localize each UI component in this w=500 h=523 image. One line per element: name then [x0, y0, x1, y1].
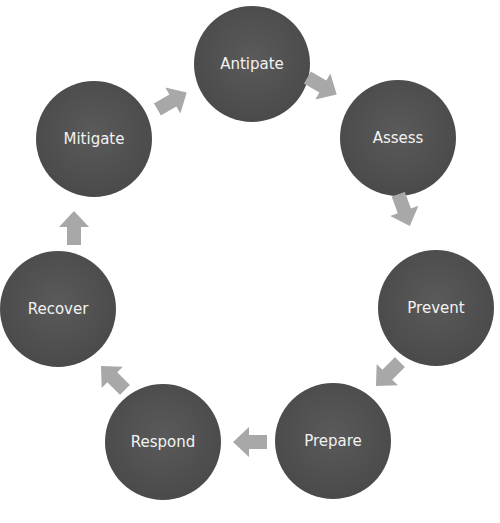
node-prepare: Prepare: [275, 383, 391, 499]
node-label: Prepare: [304, 432, 362, 450]
node-label: Prevent: [407, 299, 464, 317]
arrow-right-icon: [233, 427, 267, 457]
cycle-diagram: Antipate Assess Prevent Prepare Respond …: [0, 0, 500, 523]
arrow-right-icon: [59, 211, 89, 245]
arrow-right-icon: [150, 80, 194, 123]
node-mitigate: Mitigate: [36, 81, 152, 197]
arrow-right-icon: [365, 351, 410, 396]
node-label: Assess: [373, 129, 424, 147]
node-antipate: Antipate: [194, 6, 310, 122]
node-label: Respond: [131, 433, 196, 451]
node-assess: Assess: [340, 80, 456, 196]
node-label: Recover: [28, 300, 89, 318]
node-prevent: Prevent: [378, 250, 494, 366]
node-label: Mitigate: [64, 130, 125, 148]
node-recover: Recover: [0, 251, 116, 367]
node-respond: Respond: [105, 384, 221, 500]
node-label: Antipate: [220, 55, 284, 73]
